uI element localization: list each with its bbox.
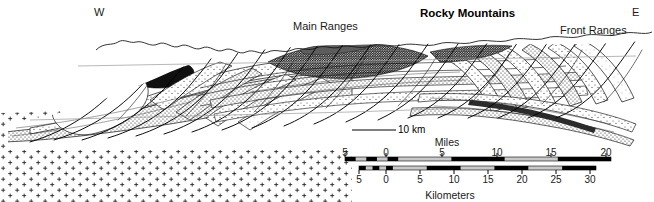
scale-tick-label-miles-2: 5 bbox=[439, 148, 445, 158]
scale-tick-label-kilometers-4: 15 bbox=[482, 175, 493, 185]
scale-tick-label-miles-1: 0 bbox=[383, 148, 389, 158]
scale-segment-kilometers-8 bbox=[494, 166, 528, 170]
scale-segment-kilometers-10 bbox=[562, 166, 596, 170]
scale-segment-miles-2 bbox=[366, 157, 377, 161]
scale-unit-label-kilometers: Kilometers bbox=[425, 190, 475, 201]
scale-tick-label-kilometers-2: 5 bbox=[417, 175, 423, 185]
scale-rail-kilometers bbox=[359, 166, 596, 170]
scale-unit-label-miles: Miles bbox=[435, 137, 460, 148]
scale-tick-label-kilometers-1: 0 bbox=[383, 175, 389, 185]
scale-tick-label-miles-0: 5 bbox=[342, 148, 348, 158]
scale-segment-kilometers-2 bbox=[373, 166, 380, 170]
scale-bar-group bbox=[0, 0, 654, 202]
scale-tick-label-kilometers-3: 10 bbox=[448, 175, 459, 185]
scale-segment-kilometers-4 bbox=[386, 166, 393, 170]
scale-tick-label-miles-5: 20 bbox=[600, 148, 611, 158]
scale-tick-label-kilometers-6: 25 bbox=[550, 175, 561, 185]
figure-root: W E Main Ranges Rocky Mountains Front Ra… bbox=[0, 0, 654, 202]
scale-segment-kilometers-6 bbox=[427, 166, 461, 170]
scale-tick-label-kilometers-0: 5 bbox=[356, 175, 362, 185]
scale-tick-label-miles-3: 10 bbox=[491, 148, 502, 158]
scale-tick-label-miles-4: 15 bbox=[545, 148, 556, 158]
scale-tick-label-kilometers-7: 30 bbox=[584, 175, 595, 185]
scale-kilometers bbox=[359, 166, 596, 174]
scale-tick-label-kilometers-5: 20 bbox=[516, 175, 527, 185]
scale-segment-kilometers-0 bbox=[359, 166, 366, 170]
